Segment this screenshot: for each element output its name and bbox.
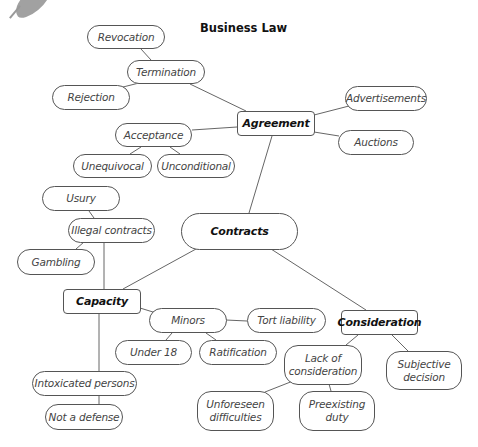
- concept-map: Business Law Contracts Agree: [0, 0, 478, 447]
- edge-lack-of-consideration-preexisting: [329, 384, 331, 391]
- node-revocation[interactable]: Revocation: [87, 25, 165, 49]
- node-consideration[interactable]: Consideration: [341, 310, 418, 335]
- node-label: Unequivocal: [81, 160, 144, 173]
- edge-agreement-acceptance: [192, 127, 237, 130]
- node-subjective-decision[interactable]: Subjective decision: [386, 351, 462, 390]
- node-label: Rejection: [67, 91, 114, 104]
- edge-minors-under-18: [166, 333, 172, 340]
- node-label: Minors: [171, 314, 205, 327]
- edge-agreement-advertisements: [314, 106, 349, 115]
- node-usury[interactable]: Usury: [42, 186, 120, 211]
- edge-minors-tort-liability: [226, 320, 247, 321]
- node-label: Contracts: [210, 225, 268, 238]
- node-label: Ratification: [209, 346, 266, 359]
- node-label: Subjective decision: [387, 358, 461, 384]
- node-label: Unforeseen difficulties: [198, 398, 273, 424]
- edge-minors-ratification: [206, 333, 216, 340]
- node-label: Usury: [66, 192, 95, 205]
- node-label: Under 18: [130, 346, 177, 359]
- node-label: Acceptance: [124, 129, 183, 142]
- node-preexisting-duty[interactable]: Preexisting duty: [299, 391, 375, 431]
- node-agreement[interactable]: Agreement: [237, 111, 315, 136]
- edge-consideration-lack-of-consideration: [346, 335, 358, 345]
- edge-consideration-subjective-decision: [392, 335, 408, 351]
- node-rejection[interactable]: Rejection: [52, 85, 130, 110]
- node-label: Agreement: [243, 117, 310, 130]
- edge-lack-of-consideration-unforeseen: [265, 381, 293, 392]
- node-label: Revocation: [98, 31, 155, 44]
- node-termination[interactable]: Termination: [127, 60, 205, 84]
- node-label: Capacity: [76, 295, 128, 308]
- node-label: Advertisements: [346, 92, 426, 105]
- node-not-a-defense[interactable]: Not a defense: [45, 404, 123, 430]
- node-label: Preexisting duty: [300, 398, 374, 424]
- edge-contracts-capacity: [123, 249, 196, 289]
- node-unconditional[interactable]: Unconditional: [157, 154, 235, 178]
- edge-acceptance-unequivocal: [130, 147, 141, 154]
- edge-contracts-agreement: [249, 136, 272, 213]
- node-under-18[interactable]: Under 18: [115, 340, 192, 365]
- node-illegal-contracts[interactable]: Illegal contracts: [68, 218, 155, 243]
- edge-agreement-termination: [190, 84, 246, 111]
- node-label: Consideration: [338, 316, 422, 329]
- node-minors[interactable]: Minors: [149, 308, 227, 333]
- node-tort-liability[interactable]: Tort liability: [247, 308, 326, 333]
- node-lack-of-consideration[interactable]: Lack of consideration: [284, 345, 362, 385]
- node-label: Illegal contracts: [71, 224, 151, 237]
- node-unequivocal[interactable]: Unequivocal: [73, 154, 152, 178]
- node-ratification[interactable]: Ratification: [199, 340, 277, 365]
- edge-agreement-auctions: [314, 132, 339, 136]
- node-advertisements[interactable]: Advertisements: [345, 86, 427, 111]
- node-label: Auctions: [354, 136, 398, 149]
- node-label: Gambling: [31, 256, 80, 269]
- node-label: Not a defense: [49, 411, 120, 424]
- node-contracts[interactable]: Contracts: [181, 213, 298, 250]
- node-label: Intoxicated persons: [35, 377, 135, 390]
- node-label: Termination: [136, 66, 196, 79]
- node-label: Unconditional: [161, 160, 231, 173]
- node-acceptance[interactable]: Acceptance: [115, 123, 192, 147]
- node-label: Lack of consideration: [285, 352, 361, 378]
- edge-contracts-consideration: [271, 249, 366, 310]
- node-unforeseen-difficulties[interactable]: Unforeseen difficulties: [197, 391, 274, 431]
- node-intoxicated-persons[interactable]: Intoxicated persons: [32, 371, 137, 396]
- edge-illegal-contracts-usury: [89, 211, 94, 218]
- node-capacity[interactable]: Capacity: [63, 289, 141, 314]
- edge-acceptance-unconditional: [170, 147, 180, 154]
- node-gambling[interactable]: Gambling: [17, 249, 95, 275]
- node-auctions[interactable]: Auctions: [338, 130, 414, 155]
- edge-illegal-contracts-gambling: [76, 242, 84, 249]
- edge-termination-revocation: [141, 49, 151, 60]
- node-label: Tort liability: [257, 314, 316, 327]
